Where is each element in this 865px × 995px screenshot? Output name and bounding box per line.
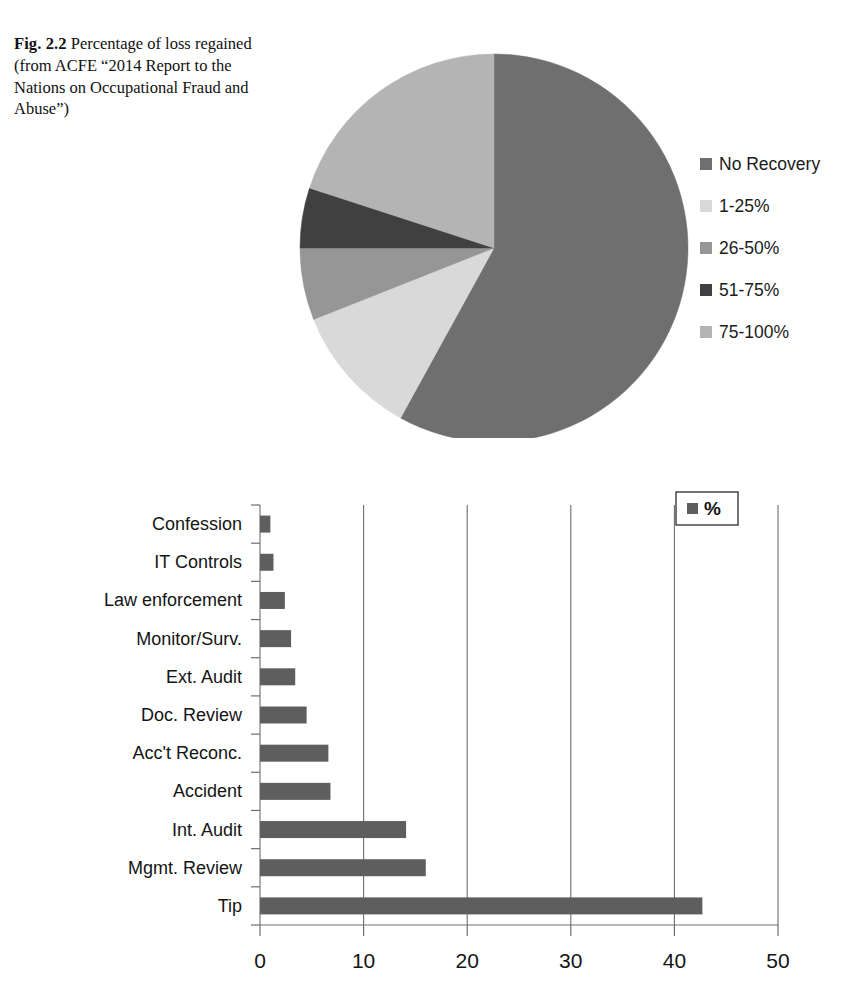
bar-chart-tick-labels: 01020304050 (254, 949, 790, 972)
bar-legend-swatch-icon (687, 503, 698, 514)
legend-swatch-icon-51-75 (700, 284, 712, 296)
bar-tip[interactable] (260, 897, 702, 914)
bar-category-label-law-enforcement: Law enforcement (104, 590, 242, 610)
bar-ext-audit[interactable] (260, 668, 295, 685)
legend-label-75-100: 75-100% (719, 322, 789, 343)
bar-law-enforcement[interactable] (260, 592, 285, 609)
legend-label-26-50: 26-50% (719, 238, 779, 259)
bar-category-label-accident: Accident (173, 781, 242, 801)
bar-category-label-mgmt-review: Mgmt. Review (128, 858, 243, 878)
legend-swatch-icon-no-recovery (700, 158, 712, 170)
legend-item-no-recovery[interactable]: No Recovery (700, 143, 860, 185)
bar-int-audit[interactable] (260, 821, 406, 838)
x-tick-label-0: 0 (254, 949, 266, 972)
legend-swatch-icon-26-50 (700, 242, 712, 254)
legend-label-1-25: 1-25% (719, 196, 770, 217)
legend-swatch-icon-1-25 (700, 200, 712, 212)
bar-mgmt-review[interactable] (260, 859, 426, 876)
legend-swatch-icon-75-100 (700, 326, 712, 338)
pie-chart-legend: No Recovery 1-25% 26-50% 51-75% 75-100% (700, 143, 860, 353)
bar-category-label-acc-t-reconc: Acc't Reconc. (133, 743, 242, 763)
bar-legend-label: % (704, 498, 721, 519)
legend-item-26-50[interactable]: 26-50% (700, 227, 860, 269)
x-tick-label-40: 40 (663, 949, 686, 972)
bar-chart-category-labels: ConfessionIT ControlsLaw enforcementMoni… (104, 514, 243, 916)
legend-label-51-75: 51-75% (719, 280, 779, 301)
bar-chart-figure: ConfessionIT ControlsLaw enforcementMoni… (0, 470, 865, 995)
bar-category-label-confession: Confession (152, 514, 242, 534)
bar-category-label-ext-audit: Ext. Audit (166, 667, 242, 687)
bar-monitor-surv[interactable] (260, 630, 291, 647)
bar-chart-legend[interactable]: % (676, 492, 738, 525)
bar-it-controls[interactable] (260, 554, 273, 571)
x-tick-label-30: 30 (559, 949, 582, 972)
pie-slices (300, 54, 688, 438)
legend-label-no-recovery: No Recovery (719, 154, 820, 175)
x-tick-label-10: 10 (352, 949, 375, 972)
pie-chart-figure: No Recovery 1-25% 26-50% 51-75% 75-100% (0, 0, 865, 470)
legend-item-75-100[interactable]: 75-100% (700, 311, 860, 353)
bar-chart-graphic: ConfessionIT ControlsLaw enforcementMoni… (0, 470, 865, 995)
bar-category-label-int-audit: Int. Audit (172, 820, 242, 840)
bar-confession[interactable] (260, 516, 270, 533)
bar-category-label-monitor-surv: Monitor/Surv. (136, 629, 242, 649)
bar-acc-t-reconc[interactable] (260, 745, 328, 762)
legend-item-1-25[interactable]: 1-25% (700, 185, 860, 227)
bar-doc-review[interactable] (260, 707, 307, 724)
legend-item-51-75[interactable]: 51-75% (700, 269, 860, 311)
bar-chart-bars (260, 516, 702, 915)
x-tick-label-20: 20 (456, 949, 479, 972)
bar-category-label-it-controls: IT Controls (154, 552, 242, 572)
pie-chart-graphic (296, 28, 696, 438)
bar-accident[interactable] (260, 783, 330, 800)
bar-category-label-doc-review: Doc. Review (141, 705, 243, 725)
x-tick-label-50: 50 (766, 949, 789, 972)
bar-category-label-tip: Tip (218, 896, 242, 916)
